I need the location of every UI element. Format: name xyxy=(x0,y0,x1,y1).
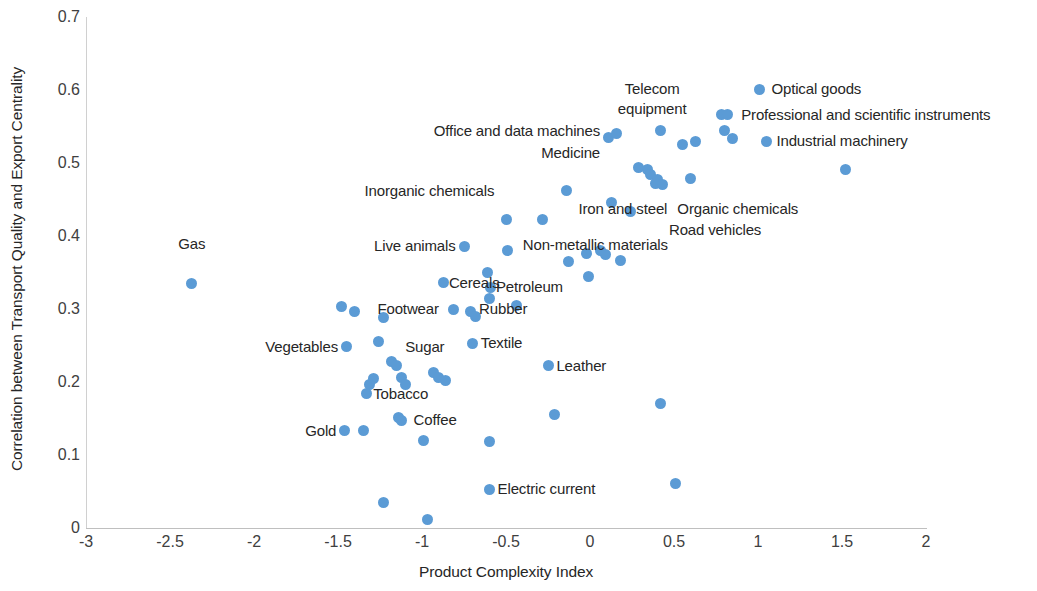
x-tick-label: 1.5 xyxy=(812,533,872,551)
y-axis-title: Correlation between Transport Quality an… xyxy=(4,4,30,534)
data-point xyxy=(502,245,513,256)
data-point xyxy=(611,128,622,139)
scatter-chart: Correlation between Transport Quality an… xyxy=(0,0,1037,591)
point-label: Office and data machines xyxy=(434,122,600,139)
point-label: Coffee xyxy=(414,411,457,428)
y-tick-label: 0.5 xyxy=(34,154,80,172)
point-label: Non-metallic materials xyxy=(523,236,668,253)
x-axis-line xyxy=(86,528,927,529)
data-point xyxy=(761,136,772,147)
point-label: Sugar xyxy=(405,338,444,355)
data-point xyxy=(448,304,459,315)
point-label: Gas xyxy=(178,235,205,252)
data-point xyxy=(537,214,548,225)
x-tick-label: 1 xyxy=(728,533,788,551)
data-point xyxy=(670,478,681,489)
x-tick-label: -0.5 xyxy=(476,533,536,551)
point-label: Professional and scientific instruments xyxy=(741,106,990,123)
x-tick-label: -2.5 xyxy=(140,533,200,551)
data-point xyxy=(396,415,407,426)
point-label: Road vehicles xyxy=(669,221,761,238)
data-point xyxy=(727,133,738,144)
data-point xyxy=(438,277,449,288)
x-tick-label: 0 xyxy=(560,533,620,551)
data-point xyxy=(655,125,666,136)
y-tick-label: 0.1 xyxy=(34,446,80,464)
data-point xyxy=(722,109,733,120)
data-point xyxy=(422,514,433,525)
point-label: Organic chemicals xyxy=(677,200,798,217)
point-label: Iron and steel xyxy=(578,200,667,217)
x-tick-label: 0.5 xyxy=(644,533,704,551)
data-point xyxy=(418,435,429,446)
data-point xyxy=(561,185,572,196)
data-point xyxy=(583,271,594,282)
y-tick-label: 0.7 xyxy=(34,8,80,26)
data-point xyxy=(615,255,626,266)
x-tick-label: -1.5 xyxy=(308,533,368,551)
data-point xyxy=(484,436,495,447)
data-point xyxy=(440,375,451,386)
data-point xyxy=(336,301,347,312)
point-label: Footwear xyxy=(377,300,438,317)
y-tick-label: 0.2 xyxy=(34,373,80,391)
x-axis-title: Product Complexity Index xyxy=(86,563,926,581)
data-point xyxy=(501,214,512,225)
data-point xyxy=(685,173,696,184)
point-label: Leather xyxy=(556,357,606,374)
data-point xyxy=(563,256,574,267)
y-tick-label: 0.4 xyxy=(34,227,80,245)
data-point xyxy=(657,179,668,190)
data-point xyxy=(690,136,701,147)
data-point xyxy=(677,139,688,150)
point-label: Tobacco xyxy=(373,385,428,402)
data-point xyxy=(341,341,352,352)
point-label: Rubber xyxy=(479,300,527,317)
x-tick-label: 2 xyxy=(896,533,956,551)
data-point xyxy=(373,336,384,347)
data-point xyxy=(754,84,765,95)
point-label: Medicine xyxy=(541,144,600,161)
data-point xyxy=(391,360,402,371)
x-tick-label: -3 xyxy=(56,533,116,551)
y-axis-tick-labels: 00.10.20.30.40.50.60.7 xyxy=(28,0,80,591)
data-point xyxy=(358,425,369,436)
point-label: Electric current xyxy=(498,480,596,497)
data-point xyxy=(459,241,470,252)
data-point xyxy=(361,388,372,399)
point-label: Telecom xyxy=(625,80,680,97)
data-point xyxy=(467,338,478,349)
data-point xyxy=(339,425,350,436)
point-label: Inorganic chemicals xyxy=(365,182,495,199)
point-label: Vegetables xyxy=(265,338,338,355)
plot-area: GasVegetablesGoldTobaccoSugarCoffeeFootw… xyxy=(86,17,926,528)
y-tick-label: 0.3 xyxy=(34,300,80,318)
point-label: Gold xyxy=(305,422,336,439)
data-point xyxy=(186,278,197,289)
x-tick-label: -1 xyxy=(392,533,452,551)
point-label: Petroleum xyxy=(496,278,563,295)
data-point xyxy=(349,306,360,317)
data-point xyxy=(378,497,389,508)
point-label: equipment xyxy=(618,100,687,117)
point-label: Optical goods xyxy=(771,80,861,97)
data-point xyxy=(655,398,666,409)
point-label: Live animals xyxy=(374,237,456,254)
x-tick-label: -2 xyxy=(224,533,284,551)
data-point xyxy=(484,484,495,495)
point-label: Cereals xyxy=(449,274,500,291)
point-label: Textile xyxy=(481,334,522,351)
data-point xyxy=(543,360,554,371)
y-tick-label: 0.6 xyxy=(34,81,80,99)
data-point xyxy=(840,164,851,175)
point-label: Industrial machinery xyxy=(776,132,907,149)
data-point xyxy=(549,409,560,420)
